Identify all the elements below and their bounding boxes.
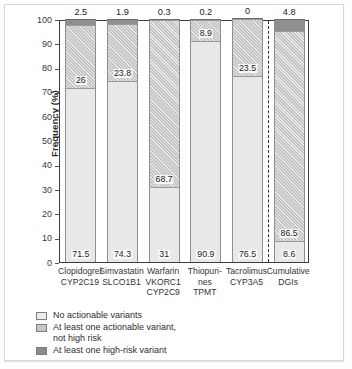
segment-no-actionable: 76.5 bbox=[232, 76, 263, 262]
high-risk-swatch bbox=[36, 347, 47, 355]
legend-item-label: At least one actionable variant,not high… bbox=[53, 322, 176, 344]
segment-no-actionable: 31 bbox=[149, 187, 180, 262]
x-label-cumulative-dgis: CumulativeDGIs bbox=[260, 266, 316, 287]
x-label-line: DGIs bbox=[260, 277, 316, 288]
x-label-line: Cumulative bbox=[260, 266, 316, 277]
legend-item-actionable-not-high-risk[interactable]: At least one actionable variant,not high… bbox=[36, 322, 176, 344]
y-tick-label: 40 bbox=[14, 161, 52, 169]
segment-no-actionable: 8.6 bbox=[274, 241, 305, 262]
segment-no-actionable: 90.9 bbox=[190, 41, 221, 262]
bar-top-value: 0.2 bbox=[199, 7, 212, 17]
bar-simvastatin[interactable]: 1.923.874.3 bbox=[107, 19, 138, 262]
bar-top-value: 4.8 bbox=[283, 7, 296, 17]
segment-actionable-value: 8.9 bbox=[199, 29, 213, 38]
y-tick-label: 90 bbox=[14, 40, 52, 48]
y-tick-label: 70 bbox=[14, 88, 52, 96]
bar-top-value: 0 bbox=[245, 6, 250, 16]
segment-actionable: 23.8 bbox=[107, 24, 138, 82]
segment-high-risk: 4.8 bbox=[274, 19, 305, 31]
segment-no-actionable: 71.5 bbox=[65, 88, 96, 262]
segment-no-actionable-value: 90.9 bbox=[196, 250, 215, 259]
legend-item-label: At least one high-risk variant bbox=[53, 345, 167, 356]
y-tick-label: 80 bbox=[14, 64, 52, 72]
segment-actionable: 68.7 bbox=[149, 20, 180, 187]
segment-actionable-value: 86.5 bbox=[280, 229, 299, 238]
y-tick-label: 100 bbox=[14, 16, 52, 24]
segment-no-actionable-value: 74.3 bbox=[113, 250, 132, 259]
bar-tacrolimus[interactable]: 023.576.5 bbox=[232, 19, 263, 262]
segment-no-actionable: 74.3 bbox=[107, 81, 138, 262]
segment-actionable-value: 23.8 bbox=[113, 69, 132, 78]
segment-actionable: 86.5 bbox=[274, 31, 305, 241]
chart-legend: No actionable variantsAt least one actio… bbox=[36, 310, 176, 357]
y-tick-label: 10 bbox=[14, 234, 52, 242]
y-tick-label: 60 bbox=[14, 113, 52, 121]
segment-actionable-value: 26 bbox=[75, 76, 87, 85]
none-swatch bbox=[36, 312, 47, 320]
legend-item-no-actionable[interactable]: No actionable variants bbox=[36, 310, 176, 321]
segment-no-actionable-value: 71.5 bbox=[71, 250, 90, 259]
bar-top-value: 0.3 bbox=[158, 7, 171, 17]
bar-thiopurines[interactable]: 0.28.990.9 bbox=[190, 19, 221, 262]
actionable-swatch bbox=[36, 324, 47, 332]
y-tick-label: 50 bbox=[14, 137, 52, 145]
bar-top-value: 1.9 bbox=[116, 7, 129, 17]
segment-actionable: 26 bbox=[65, 25, 96, 88]
bar-clopidogrel[interactable]: 2.52671.5 bbox=[65, 19, 96, 262]
y-tick-mark bbox=[55, 263, 59, 264]
legend-item-high-risk[interactable]: At least one high-risk variant bbox=[36, 345, 176, 356]
segment-actionable-value: 68.7 bbox=[155, 175, 174, 184]
figure-container: Frequency (%) 1009080706050403020100 2.5… bbox=[0, 0, 352, 369]
segment-no-actionable-value: 8.6 bbox=[282, 250, 296, 259]
segment-actionable: 23.5 bbox=[232, 19, 263, 76]
category-divider bbox=[268, 21, 269, 262]
segment-no-actionable-value: 31 bbox=[158, 250, 170, 259]
y-tick-label: 20 bbox=[14, 210, 52, 218]
bar-cumulative-dgis[interactable]: 4.886.58.6 bbox=[274, 19, 305, 262]
segment-no-actionable-value: 76.5 bbox=[238, 250, 257, 259]
bar-top-value: 2.5 bbox=[74, 7, 87, 17]
legend-item-label: No actionable variants bbox=[53, 310, 142, 321]
segment-actionable: 8.9 bbox=[190, 20, 221, 42]
y-tick-label: 0 bbox=[14, 259, 52, 267]
bar-warfarin[interactable]: 0.368.731 bbox=[149, 19, 180, 262]
plot-area: 2.52671.51.923.874.30.368.7310.28.990.90… bbox=[59, 20, 309, 263]
y-tick-label: 30 bbox=[14, 186, 52, 194]
x-label-line: TPMT bbox=[177, 287, 233, 298]
segment-actionable-value: 23.5 bbox=[238, 64, 257, 73]
